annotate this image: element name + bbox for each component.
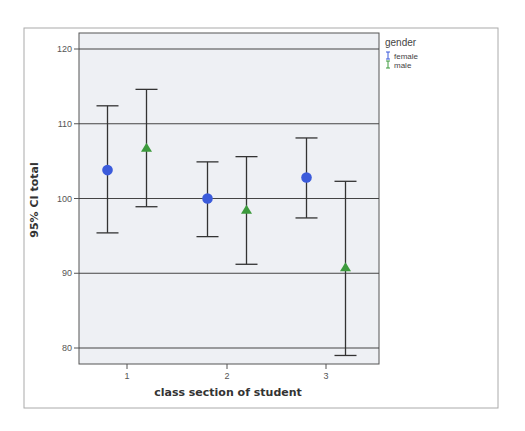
circle-marker	[202, 193, 213, 204]
y-tick-label: 90	[62, 268, 72, 278]
y-axis-title: 95% CI total	[28, 162, 41, 237]
y-tick-label: 80	[62, 343, 72, 353]
x-tick-label: 1	[124, 371, 129, 381]
y-tick-label: 100	[57, 194, 72, 204]
y-tick-label: 110	[58, 119, 72, 129]
x-tick-label: 3	[323, 371, 328, 381]
circle-marker	[102, 165, 113, 176]
legend-label: female	[394, 52, 419, 61]
chart: 8090100110120 123 95% CI total class sec…	[0, 0, 525, 431]
circle-marker	[301, 172, 312, 183]
y-tick-label: 120	[57, 44, 72, 54]
x-axis-title: class section of student	[154, 386, 302, 399]
x-tick-label: 2	[224, 371, 229, 381]
legend-label: male	[394, 61, 412, 70]
legend-title: gender	[385, 37, 417, 48]
